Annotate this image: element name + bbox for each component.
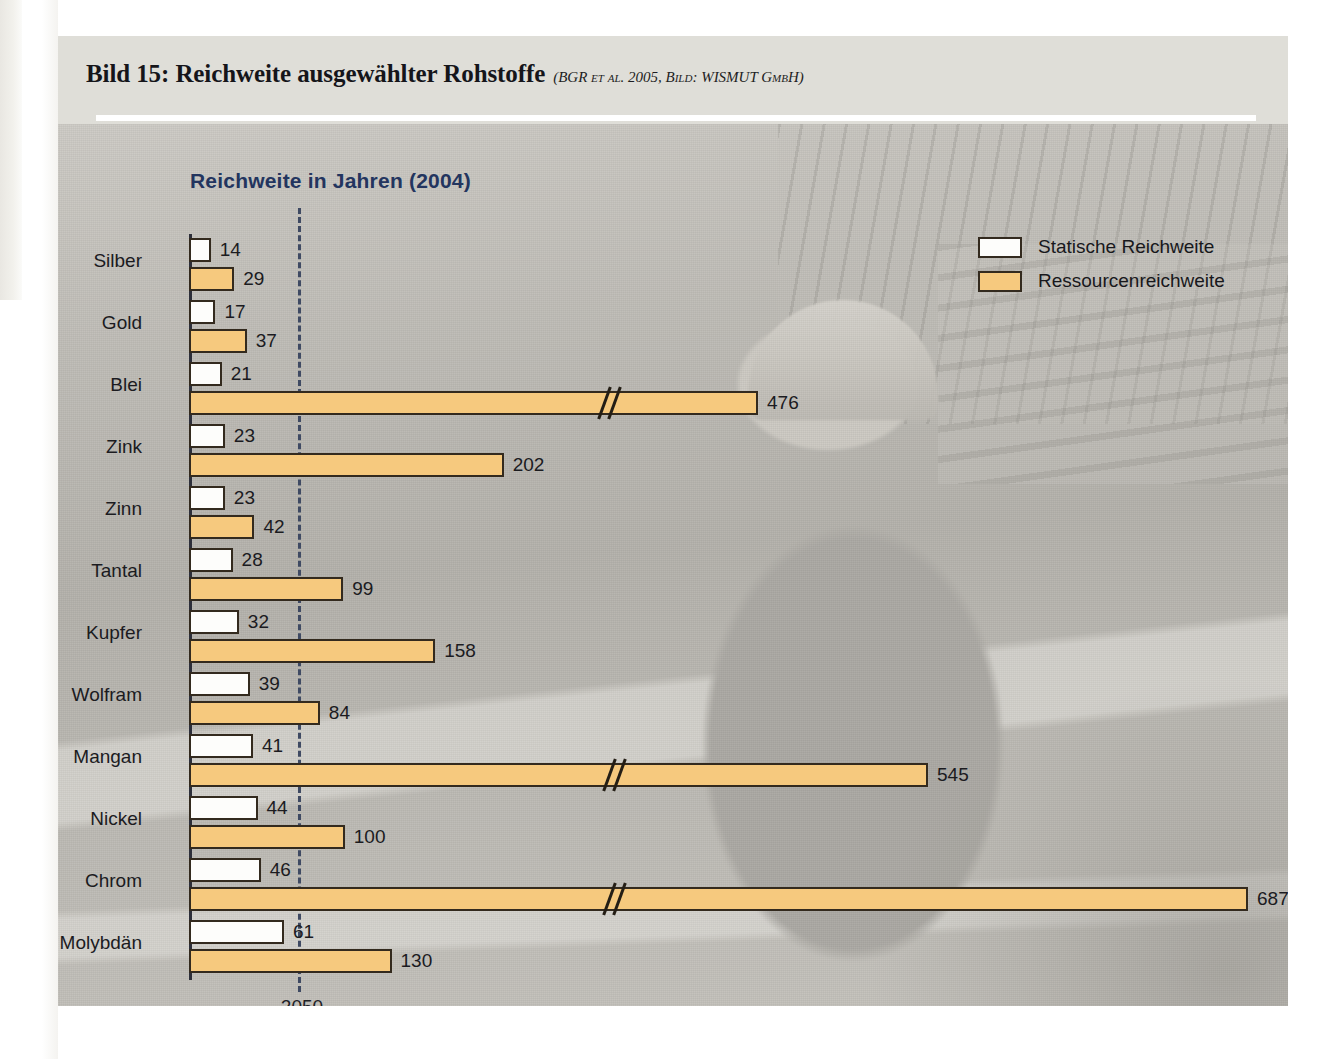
category-label-kupfer: Kupfer xyxy=(58,622,142,644)
bar-value-label: 46 xyxy=(270,858,291,882)
static-reichweite-bar-zink[interactable] xyxy=(189,424,225,448)
chart-canvas: Reichweite in Jahren (2004) 2050 Silber1… xyxy=(58,124,1288,1006)
static-reichweite-bar-kupfer[interactable] xyxy=(189,610,239,634)
ressourcenreichweite-bar-tantal[interactable] xyxy=(189,577,343,601)
title-divider xyxy=(96,115,1256,121)
paper-margin xyxy=(22,0,58,1059)
chart-legend: Statische ReichweiteRessourcenreichweite xyxy=(978,230,1225,298)
figure-caption: Bild 15: Reichweite ausgewählter Rohstof… xyxy=(58,36,1288,110)
static-reichweite-bar-tantal[interactable] xyxy=(189,548,233,572)
bar-value-label: 202 xyxy=(513,453,545,477)
static-reichweite-bar-chrom[interactable] xyxy=(189,858,261,882)
bar-value-label: 32 xyxy=(248,610,269,634)
white-square-icon xyxy=(978,237,1022,258)
legend-item-ressourcenreichweite[interactable]: Ressourcenreichweite xyxy=(978,264,1225,298)
figure-container: Bild 15: Reichweite ausgewählter Rohstof… xyxy=(58,36,1288,1006)
static-reichweite-bar-silber[interactable] xyxy=(189,238,211,262)
category-label-tantal: Tantal xyxy=(58,560,142,582)
bar-row: Zinn2342 xyxy=(58,484,1288,546)
ressourcenreichweite-bar-gold[interactable] xyxy=(189,329,247,353)
ressourcenreichweite-bar-chrom[interactable] xyxy=(189,887,1248,911)
bar-value-label: 23 xyxy=(234,424,255,448)
bar-row: Wolfram3984 xyxy=(58,670,1288,732)
static-reichweite-bar-molybdän[interactable] xyxy=(189,920,284,944)
category-label-chrom: Chrom xyxy=(58,870,142,892)
bar-value-label: 21 xyxy=(231,362,252,386)
bar-value-label: 29 xyxy=(243,267,264,291)
bar-row: Gold1737 xyxy=(58,298,1288,360)
bar-value-label: 99 xyxy=(352,577,373,601)
bar-value-label: 41 xyxy=(262,734,283,758)
category-label-mangan: Mangan xyxy=(58,746,142,768)
ressourcenreichweite-bar-molybdän[interactable] xyxy=(189,949,392,973)
figure-title: Bild 15: Reichweite ausgewählter Rohstof… xyxy=(86,60,545,87)
bar-value-label: 28 xyxy=(242,548,263,572)
plot-area: Reichweite in Jahren (2004) 2050 Silber1… xyxy=(58,124,1288,1006)
page-edge-tab: wissen zum xyxy=(0,0,22,300)
bar-row: Chrom46687 xyxy=(58,856,1288,918)
bar-value-label: 44 xyxy=(267,796,288,820)
ressourcenreichweite-bar-silber[interactable] xyxy=(189,267,234,291)
category-label-nickel: Nickel xyxy=(58,808,142,830)
figure-source: (BGR et al. 2005, Bild: WISMUT GmbH) xyxy=(553,69,804,85)
category-label-molybdän: Molybdän xyxy=(58,932,142,954)
static-reichweite-bar-wolfram[interactable] xyxy=(189,672,250,696)
static-reichweite-bar-gold[interactable] xyxy=(189,300,215,324)
reference-line-label: 2050 xyxy=(254,996,350,1006)
ressourcenreichweite-bar-mangan[interactable] xyxy=(189,763,928,787)
legend-item-statische-reichweite[interactable]: Statische Reichweite xyxy=(978,230,1225,264)
category-label-silber: Silber xyxy=(58,250,142,272)
category-label-blei: Blei xyxy=(58,374,142,396)
bar-value-label: 84 xyxy=(329,701,350,725)
bar-value-label: 545 xyxy=(937,763,969,787)
ressourcenreichweite-bar-kupfer[interactable] xyxy=(189,639,435,663)
ressourcenreichweite-bar-blei[interactable] xyxy=(189,391,758,415)
bar-value-label: 23 xyxy=(234,486,255,510)
category-label-zinn: Zinn xyxy=(58,498,142,520)
bar-row: Tantal2899 xyxy=(58,546,1288,608)
static-reichweite-bar-mangan[interactable] xyxy=(189,734,253,758)
bar-row: Kupfer32158 xyxy=(58,608,1288,670)
chart-subtitle: Reichweite in Jahren (2004) xyxy=(190,169,471,193)
category-label-zink: Zink xyxy=(58,436,142,458)
bar-row: Nickel44100 xyxy=(58,794,1288,856)
ressourcenreichweite-bar-wolfram[interactable] xyxy=(189,701,320,725)
bar-value-label: 37 xyxy=(256,329,277,353)
bar-value-label: 42 xyxy=(263,515,284,539)
legend-label: Statische Reichweite xyxy=(1038,236,1214,258)
bar-value-label: 687 xyxy=(1257,887,1288,911)
bar-row: Molybdän61130 xyxy=(58,918,1288,980)
bar-value-label: 14 xyxy=(220,238,241,262)
bar-value-label: 130 xyxy=(401,949,433,973)
bar-value-label: 158 xyxy=(444,639,476,663)
bar-row: Mangan41545 xyxy=(58,732,1288,794)
bar-value-label: 61 xyxy=(293,920,314,944)
legend-label: Ressourcenreichweite xyxy=(1038,270,1225,292)
static-reichweite-bar-nickel[interactable] xyxy=(189,796,258,820)
bar-value-label: 476 xyxy=(767,391,799,415)
orange-square-icon xyxy=(978,271,1022,292)
static-reichweite-bar-blei[interactable] xyxy=(189,362,222,386)
static-reichweite-bar-zinn[interactable] xyxy=(189,486,225,510)
category-label-wolfram: Wolfram xyxy=(58,684,142,706)
ressourcenreichweite-bar-zinn[interactable] xyxy=(189,515,254,539)
bar-row: Zink23202 xyxy=(58,422,1288,484)
bar-row: Blei21476 xyxy=(58,360,1288,422)
bar-value-label: 39 xyxy=(259,672,280,696)
bar-value-label: 17 xyxy=(224,300,245,324)
ressourcenreichweite-bar-nickel[interactable] xyxy=(189,825,345,849)
bar-value-label: 100 xyxy=(354,825,386,849)
category-label-gold: Gold xyxy=(58,312,142,334)
ressourcenreichweite-bar-zink[interactable] xyxy=(189,453,504,477)
